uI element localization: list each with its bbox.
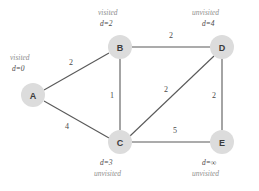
node-distance-b: d=2	[100, 20, 113, 28]
node-letter-c: C	[117, 138, 124, 148]
node-distance-d: d=4	[202, 20, 215, 28]
edge-weight-b-c: 1	[110, 91, 114, 100]
node-distance-e: d=∞	[202, 159, 216, 167]
graph-diagram: ABCDE 2412252 visitedd=0visitedd=2unvisi…	[0, 0, 259, 191]
graph-edge-c-d	[130, 56, 214, 136]
nodes-group: ABCDE	[21, 35, 234, 154]
node-letter-d: D	[219, 43, 226, 53]
node-letter-a: A	[30, 91, 37, 101]
edge-weight-d-e: 2	[212, 91, 216, 100]
edge-weight-a-b: 2	[69, 58, 73, 67]
edge-weight-c-e: 5	[173, 126, 177, 135]
node-state-e: unvisited	[192, 170, 219, 178]
node-state-b: visited	[98, 9, 118, 17]
edge-weight-b-d: 2	[169, 31, 173, 40]
node-distance-a: d=0	[12, 65, 25, 73]
weights-group: 2412252	[65, 31, 216, 135]
node-letter-e: E	[219, 138, 225, 148]
graph-edge-a-b	[44, 53, 109, 90]
graph-edge-a-c	[44, 101, 109, 138]
graph-svg: ABCDE 2412252	[0, 0, 259, 191]
node-letter-b: B	[117, 43, 124, 53]
edge-weight-a-c: 4	[65, 122, 69, 131]
node-state-a: visited	[10, 54, 30, 62]
node-state-d: unvisited	[192, 9, 219, 17]
node-distance-c: d=3	[100, 159, 113, 167]
node-state-c: unvisited	[94, 170, 121, 178]
edge-weight-c-d: 2	[164, 85, 168, 94]
